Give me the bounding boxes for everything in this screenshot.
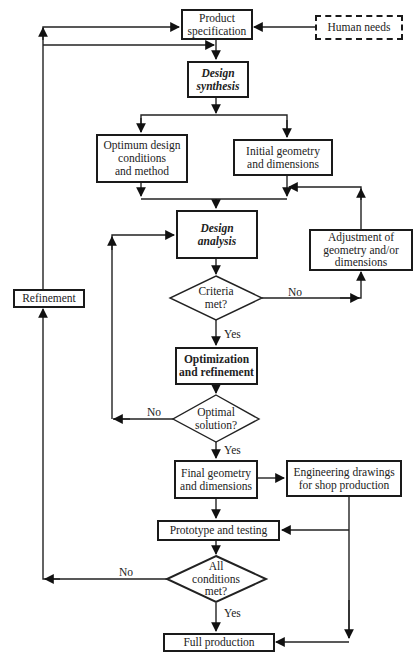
node-label: Full production xyxy=(183,636,254,649)
node-label: and dimensions xyxy=(247,158,319,171)
node-optimum-design-conditions: Optimum design conditions and method xyxy=(96,134,188,183)
node-label: Design xyxy=(201,67,234,80)
node-label: synthesis xyxy=(197,80,240,93)
node-label: All xyxy=(209,560,224,573)
node-label: Optimum design xyxy=(104,139,181,152)
label-all-conditions: All conditions met? xyxy=(182,559,250,599)
node-label: Final geometry xyxy=(181,467,251,480)
node-label: solution? xyxy=(195,419,237,432)
node-design-synthesis: Design synthesis xyxy=(187,61,249,98)
node-label: Optimization xyxy=(184,353,249,366)
edge-label-criteria-no: No xyxy=(288,286,302,298)
node-prototype-testing: Prototype and testing xyxy=(157,520,280,541)
node-label: conditions xyxy=(118,152,166,165)
node-adjustment: Adjustment of geometry and/or dimensions xyxy=(309,229,413,271)
node-label: Engineering drawings xyxy=(293,466,394,479)
edge-adjustment-to-initial xyxy=(289,187,361,229)
node-label: Product xyxy=(199,12,235,25)
node-label: Refinement xyxy=(22,292,76,305)
node-full-production: Full production xyxy=(163,633,275,652)
node-label: Adjustment of xyxy=(328,231,394,244)
edge-inner-loop xyxy=(112,235,174,419)
node-label: analysis xyxy=(198,235,236,248)
edge-criteria-no xyxy=(262,272,361,298)
node-label: met? xyxy=(205,585,227,598)
node-label: and method xyxy=(115,165,169,178)
edge-label-criteria-yes: Yes xyxy=(224,328,241,340)
node-label: for shop production xyxy=(299,479,390,492)
label-optimal-solution: Optimal solution? xyxy=(180,406,252,432)
node-human-needs: Human needs xyxy=(315,15,403,40)
edge-label-optimal-no: No xyxy=(147,406,161,418)
node-label: and dimensions xyxy=(180,480,252,493)
node-design-analysis: Design analysis xyxy=(176,210,258,259)
node-label: dimensions xyxy=(335,256,387,269)
edge-all-no xyxy=(43,309,167,579)
node-label: Optimal xyxy=(197,406,235,419)
node-label: Human needs xyxy=(328,21,391,34)
node-label: Criteria xyxy=(198,285,233,298)
node-label: and refinement xyxy=(179,366,254,379)
node-label: Prototype and testing xyxy=(170,524,268,537)
node-label: met? xyxy=(205,298,227,311)
node-label: conditions xyxy=(192,573,240,586)
node-label: Design xyxy=(200,222,233,235)
node-label: geometry and/or xyxy=(323,244,399,257)
node-final-geometry: Final geometry and dimensions xyxy=(174,460,258,499)
edge-label-optimal-yes: Yes xyxy=(224,444,241,456)
node-label: Initial geometry xyxy=(246,145,320,158)
node-label: specification xyxy=(188,25,247,38)
node-refinement: Refinement xyxy=(13,289,85,308)
edge-label-all-no: No xyxy=(119,566,133,578)
edge-label-all-yes: Yes xyxy=(224,607,241,619)
node-engineering-drawings: Engineering drawings for shop production xyxy=(286,460,402,497)
node-initial-geometry: Initial geometry and dimensions xyxy=(233,139,333,176)
node-product-specification: Product specification xyxy=(181,9,253,40)
label-criteria-met: Criteria met? xyxy=(180,285,252,311)
node-optimization-refinement: Optimization and refinement xyxy=(175,347,258,385)
